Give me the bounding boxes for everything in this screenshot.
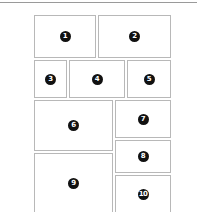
top-rule <box>0 2 197 3</box>
panel-7: 7 <box>115 100 171 138</box>
number-badge: 7 <box>138 114 149 125</box>
number-badge: 3 <box>45 74 56 85</box>
number-badge: 8 <box>138 151 149 162</box>
panel-4: 4 <box>69 60 125 98</box>
panel-6: 6 <box>34 100 113 151</box>
panel-3: 3 <box>34 60 67 98</box>
panel-8: 8 <box>115 140 171 173</box>
panel-2: 2 <box>98 15 171 58</box>
panel-1: 1 <box>34 15 96 58</box>
number-badge: 4 <box>92 74 103 85</box>
number-badge: 1 <box>60 31 71 42</box>
panel-10: 10 <box>115 175 171 212</box>
number-badge: 2 <box>129 31 140 42</box>
panel-5: 5 <box>127 60 171 98</box>
panel-9: 9 <box>34 153 113 212</box>
number-badge: 10 <box>138 189 149 200</box>
number-badge: 5 <box>144 74 155 85</box>
number-badge: 9 <box>68 178 79 189</box>
number-badge: 6 <box>68 120 79 131</box>
